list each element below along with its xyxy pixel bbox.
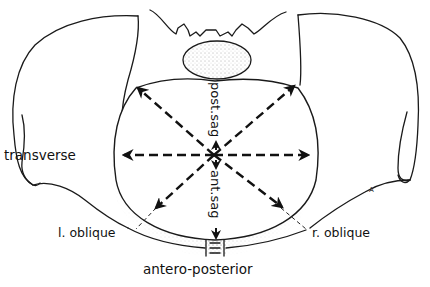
r-oblique-label: r. oblique (312, 225, 370, 240)
right-ilium (298, 14, 418, 228)
l-oblique-label: l. oblique (58, 225, 116, 240)
transverse-label: transverse (4, 147, 76, 163)
antero-posterior-label: antero-posterior (143, 261, 253, 277)
post-sag-label: post.sag (208, 82, 223, 137)
artist-mark: A (369, 186, 374, 194)
sacral-promontory (183, 41, 251, 79)
pelvic-inlet-diagram: post.sag ant.sag transverse l. oblique r… (0, 0, 430, 287)
ant-sag-label: ant.sag (208, 170, 223, 218)
sacrum (150, 10, 286, 79)
